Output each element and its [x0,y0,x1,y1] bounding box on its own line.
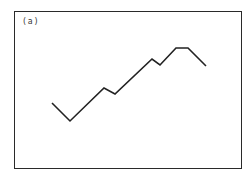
zigzag-line-plot [0,0,252,182]
trend-line [52,48,206,121]
